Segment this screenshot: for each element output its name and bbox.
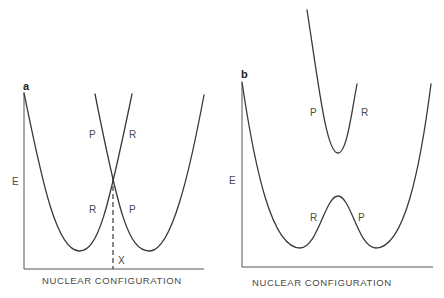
panel-a-crossing-marker: X <box>118 255 125 266</box>
panel-a-label-upper-left: P <box>89 129 96 140</box>
panel-a-left-parabola <box>24 93 132 251</box>
panel-a-label-upper-right: R <box>129 129 136 140</box>
panel-a-energy-axis-label: E <box>12 176 19 187</box>
panel-b-upper-label-right: R <box>361 107 368 118</box>
panel-a-x-axis-label: NUCLEAR CONFIGURATION <box>42 275 182 286</box>
panel-b-lower-label-left: R <box>310 212 317 223</box>
figure-canvas: a E P R R P X NUCLEAR CONFIGURATION b <box>0 0 444 298</box>
panel-b-lower-surface <box>242 82 431 248</box>
panel-b-upper-label-left: P <box>310 107 317 118</box>
panel-b: b E P R R P NUCLEAR CONFIGURATION <box>229 10 433 288</box>
panel-b-label: b <box>241 68 248 80</box>
panel-b-x-axis-label: NUCLEAR CONFIGURATION <box>252 277 392 288</box>
panel-a-label-lower-left: R <box>89 204 96 215</box>
panel-a-label: a <box>23 80 30 92</box>
panel-b-energy-axis-label: E <box>229 175 236 186</box>
potential-energy-figure: a E P R R P X NUCLEAR CONFIGURATION b <box>0 0 444 298</box>
panel-a: a E P R R P X NUCLEAR CONFIGURATION <box>12 80 204 286</box>
panel-b-axes <box>242 83 433 267</box>
panel-a-right-parabola <box>95 94 204 251</box>
panel-b-upper-surface <box>307 10 357 153</box>
panel-a-label-lower-right: P <box>129 204 136 215</box>
panel-b-lower-label-right: P <box>358 212 365 223</box>
